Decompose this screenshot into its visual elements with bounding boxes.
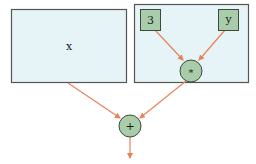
left-subtree-label: x: [66, 40, 73, 53]
expression-tree-diagram: x 3 y * +: [0, 0, 256, 164]
node-const-3: 3: [141, 10, 161, 31]
node-var-y: y: [219, 10, 239, 31]
left-subtree-box: x: [12, 10, 127, 83]
multiply-operator-label: *: [189, 67, 194, 78]
node-var-y-label: y: [224, 13, 232, 26]
node-add: +: [119, 115, 141, 137]
edge-x-to-add: [68, 83, 120, 118]
add-operator-label: +: [125, 120, 134, 133]
edge-mul-to-add: [140, 81, 186, 118]
node-multiply: *: [180, 60, 202, 82]
node-const-3-label: 3: [147, 14, 154, 27]
